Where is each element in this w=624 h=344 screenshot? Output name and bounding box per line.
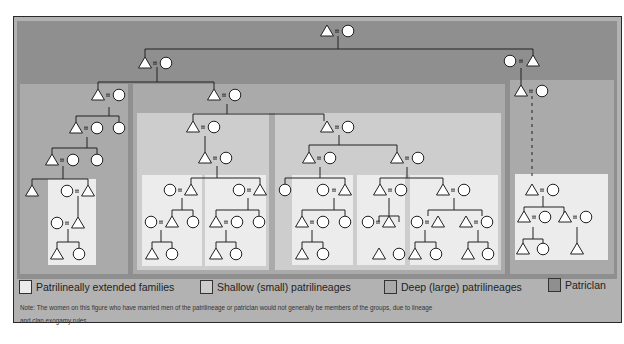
legend-label: Patriclan	[565, 279, 606, 291]
legend-label: Patrilineally extended families	[36, 281, 174, 293]
swatch-deep	[384, 280, 397, 294]
legend-patriclan: Patriclan	[548, 278, 606, 292]
legend-label: Deep (large) patrilineages	[401, 281, 522, 293]
legend-deep-patrilineages: Deep (large) patrilineages	[384, 280, 522, 294]
legend-label: Shallow (small) patrilineages	[217, 281, 351, 293]
note-line-1: Note: The women on this figure who have …	[20, 304, 432, 311]
swatch-shallow	[200, 280, 213, 294]
swatch-patriclan	[548, 278, 561, 292]
note-line-2: and clan exogamy rules.	[20, 317, 88, 324]
legend-shallow-patrilineages: Shallow (small) patrilineages	[200, 280, 351, 294]
legend-extended-families: Patrilineally extended families	[19, 280, 174, 294]
swatch-extended	[19, 280, 32, 294]
